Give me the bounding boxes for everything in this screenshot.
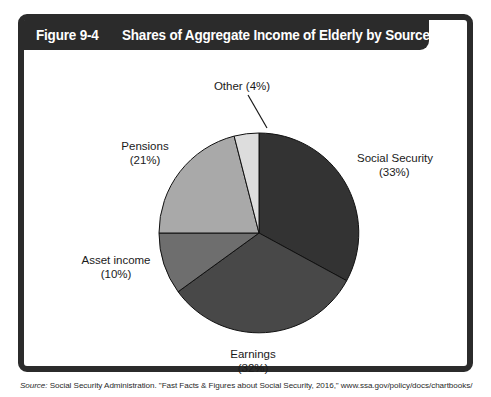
source-label: Source: <box>20 381 47 390</box>
label-pensions: Pensions (21%) <box>102 139 188 167</box>
label-social-security-name: Social Security <box>357 151 467 165</box>
pie-chart: Other (4%) Pensions (21%) Social Securit… <box>24 51 467 366</box>
label-pensions-name: Pensions <box>102 139 188 153</box>
figure-number: Figure 9-4 <box>36 27 99 43</box>
label-asset-income: Asset income (10%) <box>64 253 168 281</box>
label-earnings-pct: (32%) <box>204 361 302 375</box>
label-other-text: Other (4%) <box>194 79 290 93</box>
label-other: Other (4%) <box>194 79 290 93</box>
label-pensions-pct: (21%) <box>102 153 188 167</box>
label-social-security: Social Security (33%) <box>357 151 467 179</box>
label-earnings-name: Earnings <box>204 347 302 361</box>
pie-chart-svg <box>24 51 467 366</box>
other-leader-line <box>248 95 267 128</box>
label-earnings: Earnings (32%) <box>204 347 302 375</box>
source-note: Source: Social Security Administration. … <box>20 381 491 390</box>
figure-frame: Figure 9-4 Shares of Aggregate Income of… <box>18 14 473 372</box>
label-asset-income-pct: (10%) <box>64 267 168 281</box>
figure-header: Figure 9-4 Shares of Aggregate Income of… <box>23 19 429 50</box>
figure-title: Shares of Aggregate Income of Elderly by… <box>122 27 429 43</box>
label-social-security-pct: (33%) <box>357 165 467 179</box>
source-text: Social Security Administration. "Fast Fa… <box>47 381 472 390</box>
label-asset-income-name: Asset income <box>64 253 168 267</box>
